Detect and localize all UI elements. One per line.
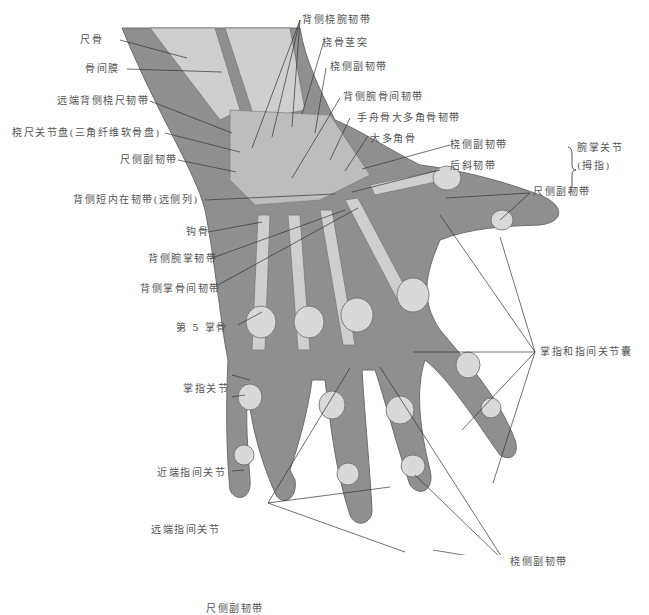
pip-joint-5 [238,384,262,410]
label-cmc-joint-thumb-sub: (拇指) [577,160,611,172]
thumb-ip-joint [491,210,513,230]
label-dorsal-radiocarpal-ligament: 背侧桡腕韧带 [302,14,371,26]
label-dorsal-intercarpal-ligament: 背侧腕骨间韧带 [343,91,424,103]
pip-joint-3 [386,396,414,424]
label-trapezium: 大多角骨 [370,133,416,145]
label-pip-joint: 近端指间关节 [157,467,226,479]
label-mcp-joint: 掌指关节 [183,383,229,395]
dip-joint-4 [337,463,359,485]
dip-joint-5 [234,445,254,465]
label-ulnar-collateral-ligament-thumb: 尺侧副韧带 [533,186,591,198]
hand-illustration [122,28,559,523]
dip-joint-2 [481,398,501,418]
label-radial-styloid: 桡骨茎突 [322,37,368,49]
dip-joint-3 [401,455,425,477]
label-fifth-metacarpal: 第 5 掌骨 [176,322,228,334]
label-ulnar-collateral-ligament-wrist: 尺侧副韧带 [120,154,178,166]
label-radial-collateral-ligament-wrist: 桡侧副韧带 [330,61,388,73]
mcp-joint-2 [397,278,429,312]
pip-joint-2 [456,352,480,378]
pip-joint-4 [319,391,345,419]
label-hamate: 钩骨 [186,226,209,238]
label-joint-capsules: 掌指和指间关节囊 [540,346,632,358]
label-radioulnar-disc: 桡尺关节盘(三角纤维软骨盘) [12,127,161,139]
label-ulnar-collateral-ligaments-fingers: 尺侧副韧带 [206,603,264,615]
label-ulna: 尺骨 [80,34,103,46]
label-dorsal-carpometacarpal-ligament: 背侧腕掌韧带 [148,253,217,265]
mcp-joint-3 [341,298,373,332]
label-scaphotrapezial-ligament: 手舟骨大多角骨韧带 [357,112,461,124]
label-interosseous-membrane: 骨间膜 [85,63,120,75]
label-distal-dorsal-radioulnar-ligament: 远端背侧桡尺韧带 [57,95,149,107]
label-dorsal-intrinsic-ligament: 背侧短内在韧带(远侧列) [73,194,199,206]
mcp-joint-4 [294,306,324,338]
label-posterior-oblique-ligament: 后斜韧带 [450,160,496,172]
label-dorsal-metacarpal-ligament: 背侧掌骨间韧带 [140,283,221,295]
label-radial-collateral-ligaments-fingers: 桡侧副韧带 [510,556,568,568]
label-cmc-joint-thumb: 腕掌关节 [577,142,623,154]
label-radial-collateral-ligament-cmc: 桡侧副韧带 [450,139,508,151]
mcp-joint-5 [246,306,276,338]
label-dip-joint: 远端指间关节 [151,524,220,536]
